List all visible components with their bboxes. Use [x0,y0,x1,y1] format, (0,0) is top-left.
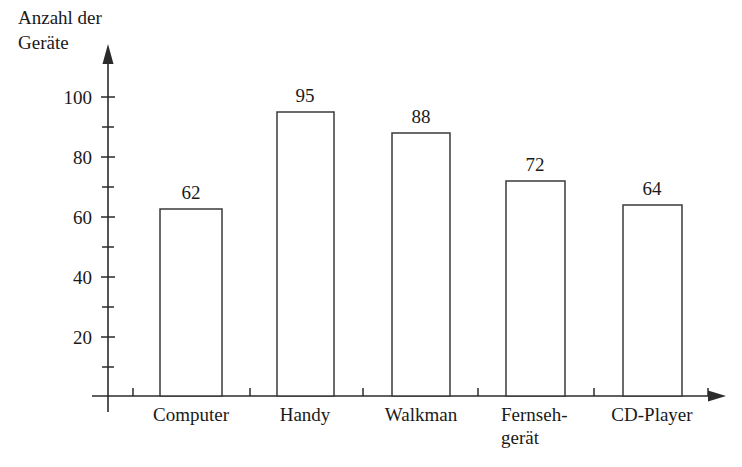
bar-handy [277,112,334,396]
value-label-handy: 95 [296,85,315,106]
category-label-cd-player: CD-Player [611,404,693,425]
bar-walkman [392,133,450,396]
x-axis-arrow-icon [708,391,726,402]
y-axis-arrow-icon [103,44,114,64]
category-label-handy: Handy [280,404,331,425]
y-axis-title-line2: Geräte [18,32,69,53]
y-tick-label-40: 40 [73,267,92,288]
value-label-walkman: 88 [412,106,431,127]
category-label-fernsehgeraet-line1: Fernseh- [501,404,567,425]
y-tick-label-60: 60 [73,207,92,228]
value-label-fernsehgeraet: 72 [526,154,545,175]
category-label-walkman: Walkman [385,404,458,425]
chart-canvas: Anzahl der Geräte 100 80 60 40 20 [0,0,742,467]
bar-chart-figure: Anzahl der Geräte 100 80 60 40 20 [0,0,742,467]
y-tick-label-100: 100 [64,87,93,108]
category-label-fernsehgeraet-line2: gerät [501,427,540,448]
bar-computer [160,209,222,396]
y-tick-label-80: 80 [73,147,92,168]
y-axis-title-line1: Anzahl der [18,7,103,28]
bar-cd-player [623,205,682,396]
category-label-computer: Computer [153,404,230,425]
bar-fernsehgeraet [506,181,565,396]
y-tick-label-20: 20 [73,327,92,348]
value-label-cd-player: 64 [643,178,663,199]
value-label-computer: 62 [182,182,201,203]
